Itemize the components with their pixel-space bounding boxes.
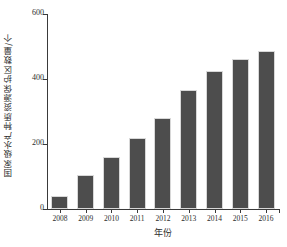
bar-chart: 国家级水产种质资源保护区数量/个 0200400600 200820092010… <box>0 0 287 247</box>
x-tick-mark-end <box>279 209 280 213</box>
y-tick-label: 400 <box>32 73 44 82</box>
bar <box>206 71 223 209</box>
x-tick-label: 2012 <box>156 214 171 223</box>
x-tick-label: 2013 <box>181 214 196 223</box>
y-axis-title: 国家级水产种质资源保护区数量/个 <box>0 0 18 210</box>
x-tick-label: 2015 <box>233 214 248 223</box>
y-tick-label: 200 <box>32 138 44 147</box>
bar <box>77 175 94 209</box>
y-tick-label: 600 <box>32 8 44 17</box>
y-axis-title-label: 国家级水产种质资源保护区数量/个 <box>5 33 14 177</box>
x-tick-mark <box>137 209 138 213</box>
y-axis-line <box>47 14 48 210</box>
bar <box>258 51 275 209</box>
x-tick-mark <box>163 209 164 213</box>
plot-area: 0200400600 20082009201020112012201320142… <box>47 14 279 209</box>
x-tick-mark <box>266 209 267 213</box>
x-tick-label: 2016 <box>259 214 274 223</box>
bar <box>103 157 120 209</box>
x-tick-label: 2008 <box>52 214 67 223</box>
bar <box>129 138 146 210</box>
bar <box>51 196 68 209</box>
y-tick-label: 0 <box>40 203 44 212</box>
x-tick-mark <box>111 209 112 213</box>
x-tick-label: 2014 <box>207 214 222 223</box>
x-axis-title: 年份 <box>47 226 279 239</box>
x-tick-mark <box>189 209 190 213</box>
x-tick-label: 2009 <box>78 214 93 223</box>
x-tick-mark <box>60 209 61 213</box>
x-tick-label: 2010 <box>104 214 119 223</box>
bar <box>180 90 197 209</box>
bar <box>154 118 171 209</box>
x-tick-mark <box>215 209 216 213</box>
x-tick-label: 2011 <box>130 214 145 223</box>
x-tick-mark <box>86 209 87 213</box>
bar <box>232 59 249 209</box>
x-tick-mark <box>240 209 241 213</box>
